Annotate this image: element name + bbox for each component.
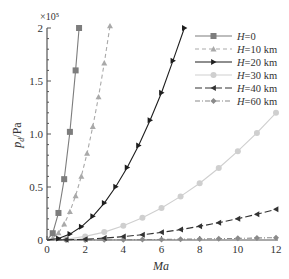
legend-item: H=0 <box>195 31 256 42</box>
legend: H=0H=10 kmH=20 kmH=30 kmH=40 kmH=60 km <box>195 31 277 107</box>
dynamic-pressure-chart: 02468101200.51.01.52 H=0H=10 kmH=20 kmH=… <box>0 0 289 279</box>
x-tick-label: 0 <box>44 243 50 255</box>
legend-item: H=60 km <box>195 96 277 107</box>
legend-label: H=40 km <box>236 83 277 94</box>
y-tick-label: 1.5 <box>29 75 43 87</box>
series-h-0 <box>47 25 82 240</box>
legend-label: H=60 km <box>236 96 277 107</box>
series-h-10-km <box>47 23 113 241</box>
legend-item: H=30 km <box>195 70 277 81</box>
y-tick-label: 0.5 <box>29 181 43 193</box>
y-multiplier: ×10⁵ <box>40 11 59 22</box>
y-tick-label: 2 <box>38 22 44 34</box>
legend-label: H=20 km <box>236 57 277 68</box>
x-tick-label: 8 <box>197 243 203 255</box>
legend-label: H=10 km <box>236 44 277 55</box>
x-tick-label: 6 <box>159 243 165 255</box>
y-axis-label: pd/Pa <box>10 122 26 149</box>
x-tick-label: 10 <box>232 243 244 255</box>
legend-label: H=30 km <box>236 70 277 81</box>
x-axis-label: Ma <box>152 259 169 273</box>
x-tick-label: 4 <box>121 243 127 255</box>
legend-label: H=0 <box>236 31 256 42</box>
legend-item: H=20 km <box>195 57 277 68</box>
x-tick-label: 2 <box>82 243 88 255</box>
x-tick-label: 12 <box>271 243 282 255</box>
legend-item: H=40 km <box>195 83 277 94</box>
y-tick-label: 0 <box>38 234 44 246</box>
y-tick-label: 1.0 <box>29 128 43 140</box>
legend-item: H=10 km <box>195 44 277 55</box>
